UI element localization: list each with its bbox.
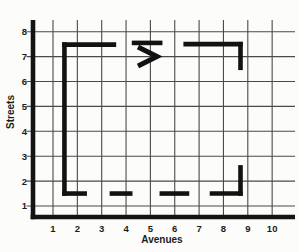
y-tick-label: 8 (22, 26, 27, 37)
x-tick-label: 7 (196, 223, 201, 234)
y-tick-label: 1 (22, 200, 28, 211)
x-tick-label: 9 (245, 223, 250, 234)
y-axis-title: Streets (5, 82, 17, 142)
x-tick-label: 8 (221, 223, 226, 234)
y-tick-label: 2 (22, 176, 27, 187)
x-tick-label: 3 (99, 223, 104, 234)
y-tick-label: 7 (22, 51, 27, 62)
x-tick-label: 10 (267, 223, 278, 234)
x-tick-label: 6 (172, 223, 177, 234)
street-grid-route-diagram: 1234567891012345678 Streets Avenues (0, 0, 299, 252)
y-tick-label: 3 (22, 151, 27, 162)
y-tick-label: 4 (22, 126, 28, 137)
x-axis-title: Avenues (122, 234, 202, 246)
grid-canvas: 1234567891012345678 (0, 0, 299, 252)
x-tick-label: 4 (123, 223, 129, 234)
x-tick-label: 1 (50, 223, 56, 234)
x-tick-label: 2 (75, 223, 80, 234)
y-tick-label: 6 (22, 76, 27, 87)
x-tick-label: 5 (148, 223, 154, 234)
y-tick-label: 5 (22, 101, 28, 112)
